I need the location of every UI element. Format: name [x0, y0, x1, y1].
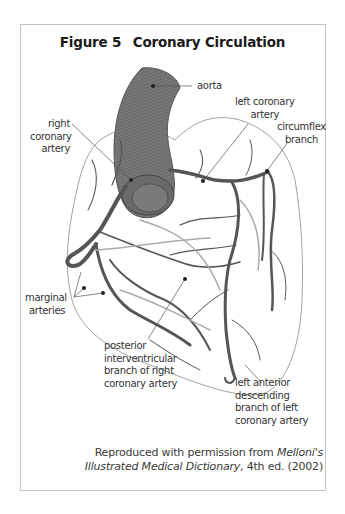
label-line: left anterior — [235, 377, 308, 390]
label-line: descending — [235, 390, 308, 403]
label-line: circumflex — [277, 121, 326, 134]
label-line: left coronary — [235, 96, 295, 109]
label-line: branch of left — [235, 402, 308, 415]
label-aorta: aorta — [197, 80, 222, 93]
label-posterior-interventricular-branch: posterior interventricular branch of rig… — [104, 340, 177, 390]
label-line: branch — [277, 134, 326, 147]
label-line: coronary artery — [104, 378, 177, 391]
label-line: interventricular — [104, 353, 177, 366]
caption-line-1: Reproduced with permission from Melloni'… — [85, 446, 323, 460]
label-left-anterior-descending-branch: left anterior descending branch of left … — [235, 377, 308, 427]
label-line: posterior — [104, 340, 177, 353]
label-line: branch of right — [104, 365, 177, 378]
caption-prefix: Reproduced with permission from — [95, 446, 277, 459]
caption-dictionary-title: Illustrated Medical Dictionary — [85, 460, 240, 473]
caption-source-italic: Melloni's — [277, 446, 323, 459]
heart-outline — [67, 118, 302, 395]
label-line: artery — [30, 143, 70, 156]
label-line: arteries — [25, 305, 67, 318]
label-line: artery — [235, 109, 295, 122]
label-line: coronary artery — [235, 415, 308, 428]
label-marginal-arteries: marginal arteries — [25, 292, 67, 317]
caption-line-2: Illustrated Medical Dictionary, 4th ed. … — [85, 460, 323, 474]
posterior-vessels — [96, 200, 259, 330]
label-right-coronary-artery: right coronary artery — [30, 118, 70, 156]
label-line: marginal — [25, 292, 67, 305]
label-left-coronary-artery: left coronary artery — [235, 96, 295, 121]
label-line: right — [30, 118, 70, 131]
figure-caption: Reproduced with permission from Melloni'… — [85, 446, 323, 474]
label-line: coronary — [30, 131, 70, 144]
heart-illustration — [0, 0, 345, 514]
label-circumflex-branch: circumflex branch — [277, 121, 326, 146]
caption-edition: , 4th ed. (2002) — [240, 460, 323, 473]
aorta-shape — [114, 68, 180, 218]
